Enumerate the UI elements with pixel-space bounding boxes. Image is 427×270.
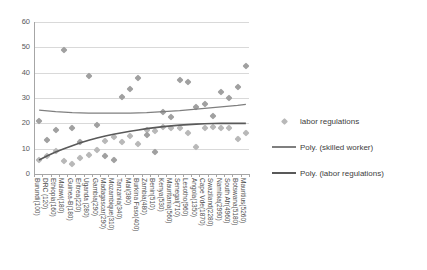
- y-axis-tick-label: 60: [0, 18, 30, 26]
- x-axis-tick: [125, 174, 126, 177]
- x-axis-tick: [191, 174, 192, 177]
- chart-legend: labor regulations Poly. (skilled worker)…: [268, 108, 426, 186]
- x-axis-tick: [232, 174, 233, 177]
- x-axis-tick-label: Tanzania(340): [116, 178, 123, 219]
- legend-item-poly-labor-regulations: Poly. (labor regulations): [268, 160, 426, 186]
- x-axis-tick-label: Lesotho(960): [182, 178, 189, 216]
- x-axis-tick: [175, 174, 176, 177]
- x-axis-tick-label: Kenya(530): [158, 178, 165, 212]
- y-axis-tick-label: 0: [0, 170, 30, 178]
- x-axis-tick-label: Burkina Faso(400): [133, 178, 140, 231]
- x-axis-tick: [34, 174, 35, 177]
- x-axis-tick-label: Uganda (280): [83, 178, 90, 218]
- x-axis-tick: [224, 174, 225, 177]
- x-axis-tick-label: Burundi(100): [34, 178, 41, 216]
- y-axis-tick-label: 20: [0, 119, 30, 127]
- x-axis-tick: [42, 174, 43, 177]
- x-axis-tick-label: Angola(1350): [191, 178, 198, 217]
- poly-skilled-worker-line: [39, 104, 246, 113]
- x-axis-tick-label: Madagascar(290): [100, 178, 107, 229]
- x-axis-tick-label: Mozambique(310): [108, 178, 115, 230]
- x-axis-tick: [183, 174, 184, 177]
- x-axis-tick: [92, 174, 93, 177]
- legend-item-labor-regulations: labor regulations: [268, 108, 426, 134]
- legend-item-label: Poly. (skilled worker): [300, 143, 373, 152]
- x-axis-tick-label: Eritrea(220): [75, 178, 82, 212]
- x-axis-tick-label: Mali(380): [125, 178, 132, 205]
- x-axis-tick: [100, 174, 101, 177]
- x-axis-tick: [133, 174, 134, 177]
- x-axis-tick-label: Namibia(2990): [216, 178, 223, 221]
- x-axis-tick: [166, 174, 167, 177]
- x-axis-tick: [108, 174, 109, 177]
- x-axis-tick-label: Mauritania(560): [166, 178, 173, 224]
- diamond-marker-icon: [268, 115, 300, 127]
- x-axis-tick: [199, 174, 200, 177]
- x-axis-tick: [241, 174, 242, 177]
- line-light-icon: [268, 141, 300, 153]
- x-axis-tick: [208, 174, 209, 177]
- x-axis-tick: [216, 174, 217, 177]
- x-axis-tick-label: Swaziland(2280): [207, 178, 214, 226]
- x-axis-tick-label: Gambia(290): [92, 178, 99, 216]
- y-axis-tick-label: 10: [0, 145, 30, 153]
- legend-item-label: labor regulations: [300, 117, 359, 126]
- x-axis-tick-label: Benin(510): [149, 178, 156, 210]
- x-axis-tick-label: Malawi(180): [58, 178, 65, 213]
- x-axis-tick-label: Guinea-B(180): [67, 178, 74, 221]
- x-axis-tick-labels: Burundi(100)DRC (120)Ethiopia(160)Malawi…: [34, 178, 249, 268]
- y-axis-tick-label: 40: [0, 69, 30, 77]
- y-axis-tick-label: 50: [0, 43, 30, 51]
- x-axis-tick-label: Botswana(5180): [232, 178, 239, 225]
- trendlines: [35, 22, 250, 174]
- y-axis-tick-label: 30: [0, 94, 30, 102]
- x-axis-tick: [158, 174, 159, 177]
- x-axis-tick: [142, 174, 143, 177]
- x-axis-tick-label: Ethiopia(160): [50, 178, 57, 217]
- x-axis-tick-label: Cape Vde(1870): [199, 178, 206, 226]
- legend-item-poly-skilled-worker: Poly. (skilled worker): [268, 134, 426, 160]
- x-axis-tick-label: Mauritius(5260): [240, 178, 247, 223]
- x-axis-tick: [75, 174, 76, 177]
- plot-area: [34, 22, 249, 174]
- x-axis-tick-label: Zambia(480): [141, 178, 148, 215]
- chart-page: 0102030405060 Burundi(100)DRC (120)Ethio…: [0, 0, 427, 270]
- x-axis-tick: [249, 174, 250, 177]
- legend-item-label: Poly. (labor regulations): [300, 169, 384, 178]
- x-axis-tick: [51, 174, 52, 177]
- x-axis-tick-label: Senegal(710): [174, 178, 181, 217]
- x-axis-tick: [84, 174, 85, 177]
- x-axis-tick-label: DRC (120): [42, 178, 49, 209]
- poly-labor-regulations-line: [39, 123, 246, 160]
- line-dark-icon: [268, 167, 300, 179]
- x-axis-tick: [117, 174, 118, 177]
- x-axis-tick-label: South Afr(4960): [224, 178, 231, 224]
- x-axis-tick: [59, 174, 60, 177]
- x-axis-tick: [150, 174, 151, 177]
- x-axis-tick: [67, 174, 68, 177]
